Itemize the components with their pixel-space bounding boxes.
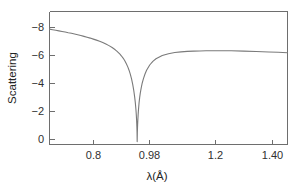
x-tick-label-0-98: 0.98: [139, 149, 160, 161]
scattering-resonance-chart: −8 −6 −4 −2 0 0.8 0.98 1.2 1.40 λ(Å) Sca…: [0, 0, 303, 188]
y-tick-label-minus4: −4: [31, 77, 44, 89]
x-axis-title: λ(Å): [146, 170, 167, 182]
y-tick-label-minus6: −6: [31, 49, 44, 61]
x-tick-label-1-2: 1.2: [208, 149, 223, 161]
x-tick-label-1-40: 1.40: [262, 149, 283, 161]
y-tick-label-zero: 0: [38, 133, 44, 145]
y-tick-label-minus8: −8: [31, 21, 44, 33]
chart-figure: −8 −6 −4 −2 0 0.8 0.98 1.2 1.40 λ(Å) Sca…: [0, 0, 303, 188]
x-tick-label-0-8: 0.8: [86, 149, 101, 161]
y-axis-title: Scattering: [6, 52, 18, 104]
y-tick-label-minus2: −2: [31, 105, 44, 117]
